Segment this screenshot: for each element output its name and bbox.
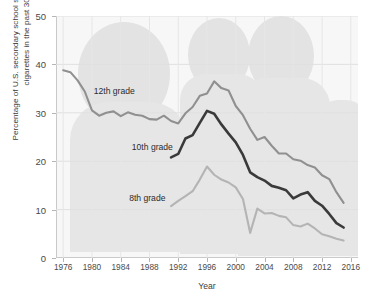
data-series-group bbox=[63, 70, 343, 240]
plot-area bbox=[56, 16, 358, 258]
y-tick-mark bbox=[52, 210, 56, 211]
y-tick-label: 30 bbox=[0, 107, 46, 118]
x-tick-mark bbox=[322, 258, 323, 262]
chart-container: Percentage of U.S. secondary school stud… bbox=[0, 0, 377, 300]
x-tick-mark bbox=[351, 258, 352, 262]
y-tick-mark bbox=[52, 16, 56, 17]
y-axis-title: Percentage of U.S. secondary school stud… bbox=[5, 0, 37, 153]
x-axis-title: Year bbox=[56, 281, 358, 291]
x-tick-mark bbox=[63, 258, 64, 262]
y-tick-mark bbox=[52, 64, 56, 65]
y-tick-mark bbox=[52, 258, 56, 259]
x-tick-mark bbox=[293, 258, 294, 262]
x-tick-mark bbox=[149, 258, 150, 262]
x-tick-mark bbox=[265, 258, 266, 262]
x-tick-label: 2016 bbox=[331, 262, 371, 272]
y-tick-mark bbox=[52, 113, 56, 114]
y-tick-label: 10 bbox=[0, 204, 46, 215]
x-tick-mark bbox=[92, 258, 93, 262]
series-layer bbox=[56, 16, 358, 258]
x-tick-mark bbox=[121, 258, 122, 262]
series-label-8th-grade: 8th grade bbox=[129, 193, 165, 203]
x-tick-mark bbox=[207, 258, 208, 262]
y-tick-label: 20 bbox=[0, 156, 46, 167]
y-tick-label: 0 bbox=[0, 253, 46, 264]
series-label-12th-grade: 12th grade bbox=[94, 86, 135, 96]
y-axis-title-text: Percentage of U.S. secondary school stud… bbox=[10, 0, 33, 153]
vertical-gridlines bbox=[63, 16, 351, 258]
y-tick-mark bbox=[52, 161, 56, 162]
x-tick-mark bbox=[236, 258, 237, 262]
x-tick-mark bbox=[178, 258, 179, 262]
y-tick-label: 40 bbox=[0, 59, 46, 70]
series-label-10th-grade: 10th grade bbox=[132, 142, 173, 152]
y-tick-label: 50 bbox=[0, 11, 46, 22]
